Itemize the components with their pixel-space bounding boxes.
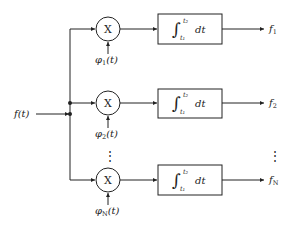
correlator-diagram: f(t) X φ1(t) ∫ t₂ t₁ dt f1 X φ2(t) ∫ t₂ … — [0, 0, 288, 231]
integrator-box — [158, 165, 222, 195]
integrator-box — [158, 14, 222, 44]
svg-text:t₁: t₁ — [180, 34, 185, 42]
branch-n: X φN(t) ∫ t₂ t₁ dt fN — [70, 165, 279, 218]
multiplier-symbol: X — [104, 23, 112, 36]
multiplier-symbol: X — [104, 174, 112, 187]
svg-text:t₂: t₂ — [183, 168, 189, 176]
junction-dot — [68, 112, 72, 116]
integrator-box — [158, 89, 222, 118]
reference-label-n: φN(t) — [95, 205, 120, 218]
svg-text:dt: dt — [195, 98, 206, 109]
multiplier-symbol: X — [104, 97, 112, 110]
svg-text:dt: dt — [195, 175, 206, 186]
svg-text:t₁: t₁ — [180, 185, 185, 193]
output-label-n: fN — [268, 174, 279, 187]
svg-text:t₂: t₂ — [183, 91, 189, 99]
svg-text:t₂: t₂ — [183, 17, 189, 25]
reference-label-1: φ1(t) — [95, 54, 118, 67]
ellipsis-right: ⋮ — [269, 149, 281, 163]
svg-text:t₁: t₁ — [180, 108, 185, 116]
reference-label-2: φ2(t) — [95, 128, 118, 141]
ellipsis-middle: ⋮ — [104, 149, 116, 163]
branch-1: X φ1(t) ∫ t₂ t₁ dt f1 — [70, 14, 277, 67]
output-label-2: f2 — [268, 97, 277, 110]
input-label: f(t) — [13, 108, 30, 119]
output-label-1: f1 — [268, 23, 277, 36]
svg-text:dt: dt — [195, 24, 206, 35]
branch-2: X φ2(t) ∫ t₂ t₁ dt f2 — [70, 89, 277, 141]
